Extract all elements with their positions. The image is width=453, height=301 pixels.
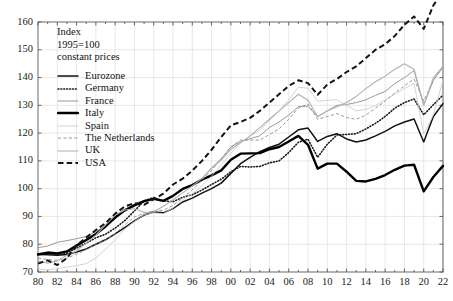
y-axis-tick-label: 80 <box>2 238 33 249</box>
y-axis-tick-label: 90 <box>2 210 33 221</box>
y-axis-tick-label: 130 <box>2 99 33 110</box>
x-axis-tick-label: 22 <box>431 276 453 287</box>
y-axis-tick-label: 120 <box>2 127 33 138</box>
line-key-solid-icon <box>57 70 79 82</box>
legend-label: UK <box>85 144 100 156</box>
chart-legend: EurozoneGermanyFranceItalySpainThe Nethe… <box>57 70 155 169</box>
legend-label: Eurozone <box>85 70 125 82</box>
legend-item-the-netherlands[interactable]: The Netherlands <box>57 132 155 144</box>
line-key-dotted-icon <box>57 83 79 95</box>
y-axis-tick-label: 110 <box>2 154 33 165</box>
legend-item-italy[interactable]: Italy <box>57 107 155 119</box>
y-axis-tick-label: 150 <box>2 43 33 54</box>
y-axis-tick-label: 140 <box>2 71 33 82</box>
line-key-gray-solid-icon <box>57 145 79 157</box>
annotation-line-prices: constant prices <box>57 51 120 64</box>
legend-label: Germany <box>85 82 124 94</box>
legend-item-germany[interactable]: Germany <box>57 82 155 94</box>
legend-item-eurozone[interactable]: Eurozone <box>57 70 155 82</box>
line-key-very-light-icon <box>57 120 79 132</box>
line-key-thin-dashed-icon <box>57 132 79 144</box>
y-axis-tick-label: 70 <box>2 266 33 277</box>
legend-label: USA <box>85 157 106 169</box>
legend-label: Spain <box>85 120 109 132</box>
line-key-light-solid-icon <box>57 95 79 107</box>
legend-label: France <box>85 95 114 107</box>
line-key-thick-solid-icon <box>57 107 79 119</box>
chart-figure: Index 1995=100 constant prices EurozoneG… <box>0 0 453 301</box>
legend-label: Italy <box>85 107 104 119</box>
line-key-bold-dashed-icon <box>57 157 79 169</box>
annotation-line-index: Index <box>57 26 120 39</box>
annotation-line-base: 1995=100 <box>57 39 120 52</box>
y-axis-tick-label: 160 <box>2 16 33 27</box>
y-axis-tick-label: 100 <box>2 182 33 193</box>
chart-annotation: Index 1995=100 constant prices <box>57 26 120 64</box>
legend-label: The Netherlands <box>85 132 155 144</box>
legend-item-france[interactable]: France <box>57 95 155 107</box>
legend-item-spain[interactable]: Spain <box>57 120 155 132</box>
legend-item-usa[interactable]: USA <box>57 157 155 169</box>
legend-item-uk[interactable]: UK <box>57 144 155 156</box>
